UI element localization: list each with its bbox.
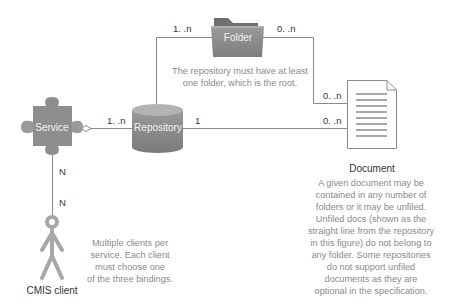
multiplicity-service-client-client-end: N (59, 197, 66, 208)
multiplicity-repo-folder-folder-end: 0. .n (277, 23, 296, 34)
cmis-client-actor-icon (42, 217, 62, 278)
client-caption: CMIS client (20, 285, 84, 296)
document-note: A given document may be contained in any… (305, 177, 437, 297)
connector-service-repository (81, 126, 132, 132)
multiplicity-service-repo-repo-end: 1. .n (107, 115, 126, 126)
multiplicity-repo-document-repo-end: 1 (195, 115, 200, 126)
multiplicity-service-client-service-end: N (59, 166, 66, 177)
client-note: Multiple clients per service. Each clien… (85, 237, 175, 285)
multiplicity-repo-document-doc-end: 0. .n (323, 115, 342, 126)
multiplicity-folder-document-doc-end: 0. .n (323, 90, 342, 101)
repository-label: Repository (130, 122, 186, 133)
folder-label: Folder (212, 32, 264, 43)
folder-note: The repository must have at least one fo… (160, 65, 320, 89)
service-label: Service (22, 122, 82, 133)
document-icon (348, 81, 397, 149)
document-caption: Document (340, 163, 404, 174)
multiplicity-repo-folder-repo-end: 1. .n (173, 23, 192, 34)
